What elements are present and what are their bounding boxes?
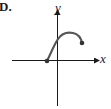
function-curve: [47, 33, 82, 61]
graph: [0, 0, 111, 109]
start-point-closed: [45, 59, 50, 64]
end-point-closed: [80, 41, 85, 46]
